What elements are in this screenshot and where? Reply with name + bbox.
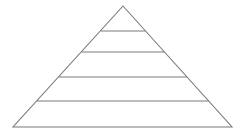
pyramid-level-fills <box>13 6 232 127</box>
pyramid-level-1-apex <box>101 6 146 31</box>
pyramid-level-5-base <box>13 101 232 127</box>
diagram-canvas <box>0 0 246 139</box>
pyramid-level-4 <box>37 77 209 101</box>
pyramid-level-2 <box>82 31 165 52</box>
pyramid-diagram <box>0 0 246 139</box>
